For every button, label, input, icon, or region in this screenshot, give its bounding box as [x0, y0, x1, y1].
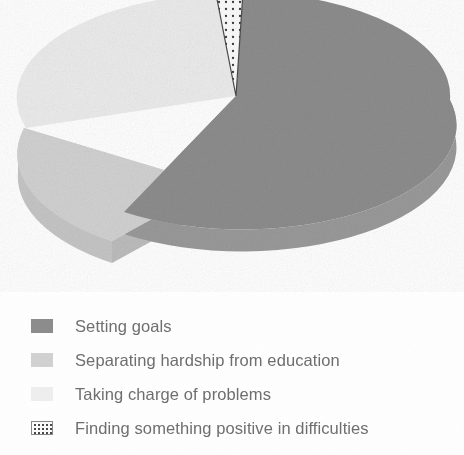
legend-swatch-medium-gray	[31, 353, 53, 367]
pie-chart-svg	[0, 0, 464, 292]
legend-label-setting-goals: Setting goals	[75, 317, 172, 336]
legend-label-finding-positive: Finding something positive in difficulti…	[75, 419, 369, 438]
chart-legend: Setting goals Separating hardship from e…	[0, 300, 464, 455]
legend-item-taking-charge: Taking charge of problems	[31, 381, 271, 407]
legend-item-finding-positive: Finding something positive in difficulti…	[31, 415, 369, 441]
paper-grain-overlay	[0, 0, 464, 292]
pie-chart-plot-area	[0, 0, 464, 292]
legend-item-setting-goals: Setting goals	[31, 313, 172, 339]
legend-label-separating-hardship: Separating hardship from education	[75, 351, 340, 370]
legend-swatch-light-gray	[31, 387, 53, 401]
pie-chart-figure: Setting goals Separating hardship from e…	[0, 0, 464, 455]
legend-swatch-dotted	[31, 421, 53, 435]
legend-label-taking-charge: Taking charge of problems	[75, 385, 271, 404]
legend-item-separating-hardship: Separating hardship from education	[31, 347, 340, 373]
legend-swatch-dark-gray	[31, 319, 53, 333]
